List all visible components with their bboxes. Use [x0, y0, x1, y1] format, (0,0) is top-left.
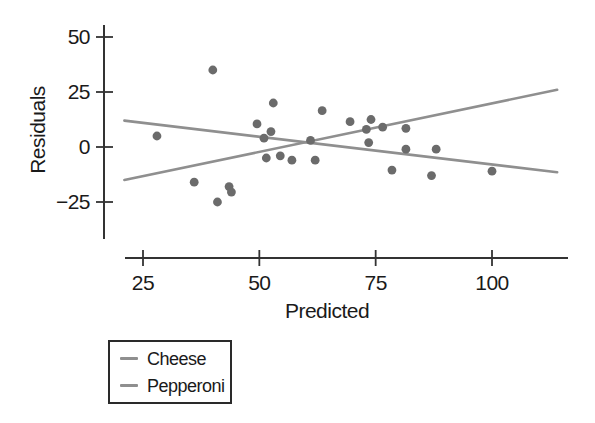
data-point — [362, 125, 371, 134]
data-point — [402, 124, 411, 133]
data-point — [269, 99, 278, 108]
data-point — [318, 106, 327, 115]
y-axis-title: Residuals — [26, 86, 50, 174]
data-point — [276, 151, 285, 160]
legend-box: Cheese Pepperoni — [108, 340, 232, 404]
data-point — [367, 115, 376, 124]
data-point — [267, 127, 276, 136]
legend-label-pepperoni: Pepperoni — [147, 377, 225, 395]
legend-item-cheese: Cheese — [120, 347, 230, 370]
data-point — [346, 117, 355, 126]
data-point — [190, 178, 199, 187]
data-point — [306, 136, 315, 145]
residual-scatter-plot: 50250−25255075100 — [0, 0, 595, 423]
data-point — [213, 198, 222, 207]
legend-label-cheese: Cheese — [147, 350, 206, 368]
data-point — [260, 134, 269, 143]
data-point — [208, 66, 217, 75]
x-tick-label: 75 — [364, 271, 386, 294]
data-point — [288, 156, 297, 165]
data-point — [227, 188, 236, 197]
data-point — [364, 138, 373, 147]
x-tick-label: 50 — [248, 271, 270, 294]
data-point — [488, 167, 497, 176]
pepperoni-line-swatch — [120, 384, 138, 387]
cheese-trend-line — [124, 121, 557, 173]
y-tick-label: 25 — [68, 80, 90, 103]
data-point — [432, 145, 441, 154]
x-axis-title: Predicted — [285, 299, 369, 323]
y-tick-label: −25 — [56, 190, 90, 213]
data-point — [402, 145, 411, 154]
data-point — [153, 132, 162, 141]
cheese-line-swatch — [120, 357, 138, 360]
data-point — [311, 156, 320, 165]
data-point — [262, 154, 271, 163]
data-point — [378, 123, 387, 132]
x-tick-label: 25 — [132, 271, 154, 294]
pepperoni-trend-line — [124, 90, 557, 180]
y-tick-label: 50 — [68, 25, 90, 48]
x-tick-label: 100 — [475, 271, 509, 294]
y-tick-label: 0 — [79, 135, 90, 158]
data-point — [427, 171, 436, 180]
data-point — [388, 166, 397, 175]
residuals-figure: 50250−25255075100 Residuals Predicted Ch… — [0, 0, 595, 423]
data-point — [253, 120, 262, 129]
legend-item-pepperoni: Pepperoni — [120, 374, 230, 397]
